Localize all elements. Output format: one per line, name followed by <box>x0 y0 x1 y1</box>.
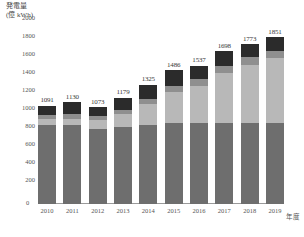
y-axis-tick-1800: 1800 <box>22 32 35 39</box>
bar-value-label: 1851 <box>268 28 281 36</box>
bar-segment-series-4-top <box>266 37 284 51</box>
bar-segment-series-1-base <box>114 127 132 204</box>
bar-segment-series-2-light <box>241 65 259 124</box>
bar-value-label: 1325 <box>142 75 155 83</box>
bar-column[interactable]: 18512019 <box>266 24 284 204</box>
bar-value-label: 1486 <box>167 61 180 69</box>
bar-column[interactable]: 10732012 <box>89 24 107 204</box>
bar-segment-series-1-base <box>38 125 56 204</box>
bar-segment-series-3-mid <box>241 57 259 64</box>
bar-value-label: 1130 <box>66 93 79 101</box>
x-axis-tick-2015: 2015 <box>167 207 180 214</box>
x-axis-tick-2018: 2018 <box>243 207 256 214</box>
bar-stack[interactable]: 1130 <box>63 102 81 204</box>
y-axis-tick-800: 800 <box>25 122 35 129</box>
bar-segment-series-1-base <box>266 123 284 204</box>
bar-segment-series-2-light <box>114 114 132 126</box>
x-axis-tick-2010: 2010 <box>41 207 54 214</box>
x-axis-tick-2014: 2014 <box>142 207 155 214</box>
bar-value-label: 1179 <box>117 88 130 96</box>
x-axis-title: 年度 <box>286 211 300 221</box>
bar-segment-series-4-top <box>165 70 183 86</box>
bar-segment-series-3-mid <box>215 66 233 73</box>
bar-value-label: 1773 <box>243 35 256 43</box>
stacked-bar-chart: 発電量 (億 kWh) 0 20001800160014001200100080… <box>0 0 304 237</box>
bar-stack[interactable]: 1073 <box>89 107 107 204</box>
bar-segment-series-1-base <box>139 125 157 204</box>
plot-area: 200018001600140012001000800600400200 109… <box>38 24 284 204</box>
y-axis-tick-200: 200 <box>25 176 35 183</box>
bar-segment-series-1-base <box>190 123 208 204</box>
bar-stack[interactable]: 1698 <box>215 51 233 204</box>
bar-value-label: 1073 <box>91 98 104 106</box>
bar-stack[interactable]: 1537 <box>190 66 208 204</box>
bar-segment-series-3-mid <box>266 51 284 58</box>
bar-segment-series-2-light <box>139 104 157 125</box>
bar-column[interactable]: 11792013 <box>114 24 132 204</box>
x-axis-tick-2012: 2012 <box>91 207 104 214</box>
bar-segment-series-4-top <box>63 102 81 114</box>
bar-segment-series-4-top <box>89 107 107 116</box>
bar-segment-series-4-top <box>241 44 259 57</box>
bar-stack[interactable]: 1851 <box>266 37 284 204</box>
bar-stack[interactable]: 1325 <box>139 85 157 204</box>
bar-column[interactable]: 17732018 <box>241 24 259 204</box>
bar-stack[interactable]: 1486 <box>165 70 183 204</box>
bar-segment-series-4-top <box>114 98 132 110</box>
bar-segment-series-1-base <box>89 129 107 204</box>
bar-value-label: 1698 <box>218 42 231 50</box>
bar-series-group: 1091201011302011107320121179201313252014… <box>38 24 284 204</box>
y-axis-tick-1600: 1600 <box>22 50 35 57</box>
bar-segment-series-2-light <box>89 120 107 129</box>
bar-value-label: 1091 <box>40 96 53 104</box>
y-axis-tick-400: 400 <box>25 158 35 165</box>
bar-segment-series-2-light <box>266 58 284 123</box>
y-axis-tick-1000: 1000 <box>22 104 35 111</box>
bar-stack[interactable]: 1773 <box>241 44 259 204</box>
bar-value-label: 1537 <box>192 56 205 64</box>
bar-segment-series-1-base <box>241 123 259 204</box>
y-axis-title-line1: 発電量 <box>6 2 27 10</box>
bar-segment-series-2-light <box>215 73 233 123</box>
x-axis-tick-2017: 2017 <box>218 207 231 214</box>
bar-segment-series-1-base <box>165 123 183 204</box>
bar-column[interactable]: 13252014 <box>139 24 157 204</box>
bar-column[interactable]: 15372016 <box>190 24 208 204</box>
x-axis-tick-2019: 2019 <box>268 207 281 214</box>
bar-segment-series-4-top <box>139 85 157 99</box>
y-axis-tick-600: 600 <box>25 140 35 147</box>
bar-segment-series-4-top <box>215 51 233 65</box>
bar-column[interactable]: 16982017 <box>215 24 233 204</box>
bar-column[interactable]: 11302011 <box>63 24 81 204</box>
bar-column[interactable]: 14862015 <box>165 24 183 204</box>
x-axis-tick-2011: 2011 <box>66 207 79 214</box>
bar-stack[interactable]: 1091 <box>38 106 56 204</box>
y-axis-tick-2000: 2000 <box>22 14 35 21</box>
bar-segment-series-1-base <box>63 125 81 204</box>
bar-segment-series-2-light <box>165 92 183 123</box>
y-axis-zero-tick: 0 <box>26 199 29 206</box>
bar-segment-series-4-top <box>190 66 208 80</box>
bar-column[interactable]: 10912010 <box>38 24 56 204</box>
x-axis-tick-2016: 2016 <box>192 207 205 214</box>
bar-segment-series-1-base <box>215 123 233 204</box>
x-axis-tick-2013: 2013 <box>116 207 129 214</box>
y-axis-tick-1200: 1200 <box>22 86 35 93</box>
y-axis-tick-1400: 1400 <box>22 68 35 75</box>
bar-stack[interactable]: 1179 <box>114 98 132 204</box>
bar-segment-series-4-top <box>38 106 56 116</box>
bar-segment-series-2-light <box>190 86 208 123</box>
